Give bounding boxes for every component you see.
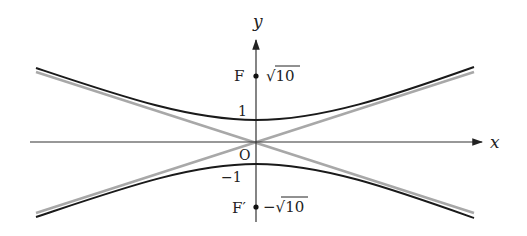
focus-lower-value: −√10 [263, 198, 304, 216]
focus-upper-value: √10 [266, 67, 295, 85]
origin-label: O [239, 147, 250, 163]
y-axis-label: y [252, 11, 263, 31]
focus-lower-point [253, 204, 258, 209]
x-axis-label: x [490, 132, 500, 152]
focus-lower-label: F′ [232, 199, 246, 217]
focus-upper-point [253, 73, 258, 78]
focus-upper-label: F [234, 67, 244, 85]
tick-label-y-1: 1 [238, 103, 247, 119]
hyperbola-diagram: y x O 1 −1 F √10 F′ −√10 [0, 0, 527, 236]
tick-label-y-neg-1: −1 [221, 169, 242, 185]
